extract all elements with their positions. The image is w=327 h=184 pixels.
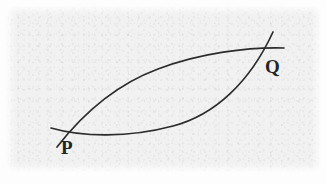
lower-arc-path (51, 32, 273, 135)
upper-arc-path (57, 48, 284, 147)
vertex-label-q: Q (265, 57, 280, 76)
diagram-drawing (0, 0, 327, 184)
figure-canvas: P Q (0, 0, 327, 184)
vertex-label-p: P (61, 138, 73, 157)
